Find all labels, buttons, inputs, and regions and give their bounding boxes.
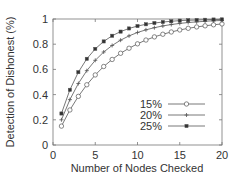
data-point [118, 51, 122, 55]
data-point [68, 108, 72, 112]
x-tick-label: 5 [92, 149, 98, 161]
data-point [135, 42, 139, 46]
data-point [119, 38, 123, 42]
y-axis-ticks: 00.20.40.60.81 [33, 13, 222, 151]
data-point [212, 18, 215, 21]
y-tick-label: 0.4 [33, 89, 48, 101]
data-point [136, 24, 139, 27]
legend: 15%20%25% [140, 98, 205, 132]
line-chart: 00.20.40.60.81 05101520 Detection of Dis… [0, 0, 232, 178]
data-point [220, 18, 223, 21]
data-point [136, 30, 140, 34]
y-tick-label: 0.8 [33, 38, 48, 50]
data-point [68, 88, 71, 91]
data-point [111, 34, 114, 37]
data-point [127, 46, 131, 50]
x-axis-ticks: 05101520 [50, 19, 228, 161]
data-point [204, 18, 207, 21]
data-point [187, 19, 190, 22]
data-point [85, 57, 88, 60]
x-tick-label: 0 [50, 149, 56, 161]
x-tick-label: 10 [131, 149, 143, 161]
data-point [68, 98, 72, 102]
data-point [144, 23, 147, 26]
data-point [153, 21, 156, 24]
legend-marker [184, 102, 188, 106]
data-point [119, 30, 122, 33]
data-point [195, 18, 198, 21]
data-point [194, 25, 198, 29]
data-point [102, 40, 105, 43]
data-point [76, 94, 80, 98]
legend-label: 25% [140, 120, 162, 132]
y-axis-title: Detection of Dishonest (%) [4, 17, 16, 148]
data-point [59, 124, 63, 128]
y-tick-label: 0.6 [33, 63, 48, 75]
data-point [102, 64, 106, 68]
data-point [161, 20, 164, 23]
data-point [77, 71, 80, 74]
data-point [178, 28, 182, 32]
x-tick-label: 15 [174, 149, 186, 161]
data-point [76, 82, 80, 86]
data-point [85, 83, 89, 87]
data-point [203, 24, 207, 28]
data-point [60, 112, 63, 115]
y-tick-label: 1 [42, 13, 48, 25]
data-point [93, 73, 97, 77]
data-point [127, 27, 130, 30]
data-point [152, 26, 156, 30]
data-point [144, 28, 148, 32]
data-point [110, 57, 114, 61]
data-point [94, 47, 97, 50]
data-point [161, 32, 165, 36]
data-point [169, 23, 173, 27]
data-point [144, 38, 148, 42]
data-point [169, 30, 173, 34]
y-tick-label: 0 [42, 139, 48, 151]
y-tick-label: 0.2 [33, 114, 48, 126]
data-point [186, 26, 190, 30]
x-tick-label: 20 [216, 149, 228, 161]
x-axis-title: Number of Nodes Checked [71, 162, 204, 174]
legend-marker [185, 113, 189, 117]
legend-marker [185, 124, 188, 127]
data-point [211, 23, 215, 27]
data-point [59, 118, 63, 122]
data-point [170, 20, 173, 23]
data-point [127, 34, 131, 38]
data-point [161, 24, 165, 28]
data-point [152, 35, 156, 39]
data-point [178, 19, 181, 22]
